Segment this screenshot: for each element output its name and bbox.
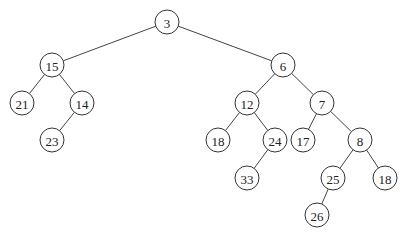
tree-node: 17 bbox=[291, 128, 315, 152]
tree-node: 25 bbox=[321, 166, 345, 190]
tree-edge-n12-n24 bbox=[254, 113, 268, 131]
node-label: 12 bbox=[241, 97, 254, 112]
tree-edge-n6-n12 bbox=[255, 74, 274, 95]
tree-edge-n12-n18a bbox=[225, 112, 239, 130]
tree-node: 7 bbox=[310, 91, 334, 115]
tree-node: 6 bbox=[271, 53, 295, 77]
tree-edge-n24-n33 bbox=[254, 150, 268, 169]
binary-tree-diagram: 3156211423127182417833251826 bbox=[0, 0, 414, 240]
node-label: 8 bbox=[357, 134, 364, 149]
node-label: 15 bbox=[46, 59, 59, 74]
tree-edge-n7-n17 bbox=[308, 114, 316, 130]
tree-node: 3 bbox=[155, 10, 179, 34]
tree-edge-n15-n21 bbox=[29, 74, 44, 93]
tree-edge-n7-n8 bbox=[331, 111, 352, 131]
tree-edge-n3-n15 bbox=[63, 26, 156, 61]
tree-node: 8 bbox=[348, 128, 372, 152]
tree-node: 15 bbox=[40, 53, 64, 77]
node-label: 18 bbox=[379, 172, 392, 187]
node-label: 14 bbox=[76, 97, 90, 112]
tree-edge-n15-n14 bbox=[59, 74, 74, 93]
tree-node: 33 bbox=[235, 166, 259, 190]
tree-node: 14 bbox=[70, 91, 94, 115]
tree-node: 21 bbox=[10, 91, 34, 115]
node-label: 25 bbox=[327, 172, 340, 187]
tree-edge-n25-n26 bbox=[322, 189, 328, 204]
node-label: 18 bbox=[212, 134, 225, 149]
node-label: 21 bbox=[16, 97, 29, 112]
node-label: 7 bbox=[319, 97, 326, 112]
tree-edge-n8-n18b bbox=[367, 150, 379, 168]
node-label: 3 bbox=[164, 16, 171, 31]
node-label: 17 bbox=[297, 134, 311, 149]
tree-node: 12 bbox=[235, 91, 259, 115]
tree-edge-n14-n23 bbox=[60, 112, 75, 130]
node-label: 26 bbox=[311, 209, 325, 224]
tree-edge-n3-n6 bbox=[178, 26, 271, 61]
tree-node: 18 bbox=[206, 128, 230, 152]
node-label: 33 bbox=[241, 172, 254, 187]
tree-node: 23 bbox=[40, 128, 64, 152]
tree-node: 18 bbox=[373, 166, 397, 190]
tree-edge-n8-n25 bbox=[340, 150, 353, 168]
node-label: 24 bbox=[269, 134, 283, 149]
node-label: 6 bbox=[280, 59, 287, 74]
tree-edge-n6-n7 bbox=[292, 73, 314, 94]
tree-node: 26 bbox=[305, 203, 329, 227]
tree-nodes: 3156211423127182417833251826 bbox=[10, 10, 397, 227]
tree-node: 24 bbox=[263, 128, 287, 152]
node-label: 23 bbox=[46, 134, 59, 149]
